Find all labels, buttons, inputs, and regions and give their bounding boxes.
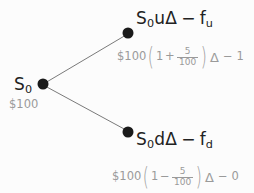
binomial-tree-diagram: S0 $100 S0uΔ−fu $100(1+5100)Δ−1 S0dΔ−fd … [0,0,254,193]
up-minus: − [177,8,199,28]
down-minus: − [177,129,199,149]
up-currency: $100 [117,51,146,63]
down-formula-minus: − [214,171,232,183]
down-formula-delta: Δ [204,171,214,184]
node-dot-root[interactable] [38,79,49,90]
node-label-up: S0uΔ−fu [136,10,213,27]
up-symbol: S [136,8,147,28]
up-operator: + [163,51,176,63]
edge-root-to-down [45,86,126,130]
node-formula-up: $100(1+5100)Δ−1 [117,47,244,67]
down-factor: d [154,129,165,149]
up-denominator: 100 [177,58,198,68]
down-payoff: 0 [232,171,239,183]
up-factor: u [154,8,165,28]
down-operator: − [158,171,171,183]
edge-root-to-up [45,35,126,83]
up-numerator: 5 [183,47,193,57]
down-one: 1 [151,171,158,183]
up-one: 1 [156,51,163,63]
up-subscript: 0 [147,17,154,30]
node-label-down: S0dΔ−fd [136,131,213,148]
down-f: f [200,129,206,149]
down-currency: $100 [112,171,141,183]
up-f: f [200,8,206,28]
down-delta: Δ [165,129,177,149]
node-dot-up[interactable] [123,28,134,39]
down-symbol: S [136,129,147,149]
node-label-root: S0 [14,76,32,93]
down-f-subscript: d [206,138,213,151]
down-subscript: 0 [147,138,154,151]
up-f-subscript: u [206,17,213,30]
up-formula-delta: Δ [209,51,219,64]
root-subscript: 0 [25,83,32,96]
up-delta: Δ [165,8,177,28]
node-dot-down[interactable] [123,127,134,138]
node-formula-down: $100(1−5100)Δ−0 [112,167,239,187]
up-formula-minus: − [219,51,237,63]
up-payoff: 1 [237,51,244,63]
root-symbol: S [14,74,25,94]
down-numerator: 5 [178,167,188,177]
down-fraction: 5100 [172,167,193,187]
down-denominator: 100 [172,178,193,188]
node-value-root: $100 [9,99,38,111]
up-fraction: 5100 [177,47,198,67]
